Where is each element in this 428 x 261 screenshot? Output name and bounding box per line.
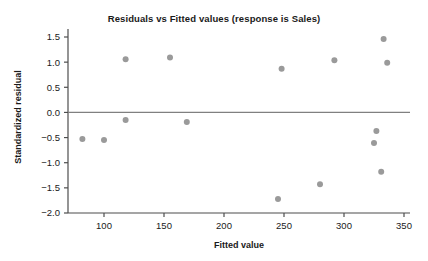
y-axis-ticks: 1.51.00.50.0−0.5−1.0−1.5−2.0 (41, 31, 68, 218)
y-tick-label: 1.0 (47, 57, 60, 68)
data-point (184, 119, 190, 125)
y-tick-label: −0.5 (41, 132, 60, 143)
y-tick-label: −2.0 (41, 207, 60, 218)
x-tick-label: 150 (156, 220, 172, 231)
data-point (123, 56, 129, 62)
x-tick-label: 200 (216, 220, 232, 231)
data-point (79, 136, 85, 142)
y-tick-label: −1.0 (41, 157, 60, 168)
data-point (101, 137, 107, 143)
data-point (384, 60, 390, 66)
residual-plot: Residuals vs Fitted values (response is … (0, 0, 428, 261)
y-tick-label: 0.5 (47, 82, 60, 93)
y-tick-label: −1.5 (41, 182, 60, 193)
x-tick-label: 250 (276, 220, 292, 231)
data-point (167, 55, 173, 61)
data-point (279, 66, 285, 72)
data-point (331, 57, 337, 63)
data-point (373, 128, 379, 134)
x-axis-ticks: 100150200250300350 (96, 213, 412, 231)
x-tick-label: 350 (396, 220, 412, 231)
data-point (317, 181, 323, 187)
x-tick-label: 300 (336, 220, 352, 231)
data-point (123, 117, 129, 123)
data-point (371, 140, 377, 146)
y-tick-label: 0.0 (47, 107, 60, 118)
scatter-points (79, 36, 390, 202)
x-tick-label: 100 (96, 220, 112, 231)
y-tick-label: 1.5 (47, 31, 60, 42)
data-point (381, 36, 387, 42)
plot-area: 1.51.00.50.0−0.5−1.0−1.5−2.0 10015020025… (0, 0, 428, 261)
data-point (275, 196, 281, 202)
data-point (378, 169, 384, 175)
